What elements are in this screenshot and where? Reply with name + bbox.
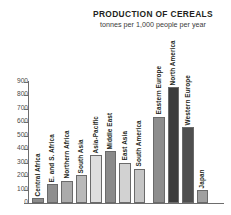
bar-label: Eastern Europe [156, 66, 162, 115]
cereal-production-chart: PRODUCTION OF CEREALS tonnes per 1,000 p… [0, 0, 231, 215]
bar-label: E. and S. Africa [49, 134, 55, 182]
bar [32, 198, 44, 203]
bar [90, 155, 102, 203]
bar [105, 151, 117, 203]
bar-label: Central Africa [35, 153, 41, 196]
bar-label: Western Europe [185, 75, 191, 125]
bar-series: Central AfricaE. and S. AfricaNorthern A… [28, 0, 224, 215]
bar-label: Asia-Pacific [93, 116, 99, 153]
plot-area: 0100200300400500600700800900 Central Afr… [0, 0, 231, 215]
bar [197, 190, 209, 203]
bar-label: South America [136, 120, 142, 166]
bar-label: Middle East [107, 112, 113, 149]
bar-label: East Asia [122, 131, 128, 160]
bar [182, 127, 194, 203]
bar-label: North America [170, 40, 176, 85]
bar [119, 163, 131, 204]
bar [168, 87, 180, 203]
bar-label: Northern Africa [64, 131, 70, 179]
bar [134, 169, 146, 203]
bar [153, 117, 165, 203]
bar-label: South Asia [78, 139, 84, 173]
bar [76, 175, 88, 203]
bar [61, 181, 73, 203]
bar [47, 184, 59, 203]
bar-label: Japan [199, 169, 205, 188]
